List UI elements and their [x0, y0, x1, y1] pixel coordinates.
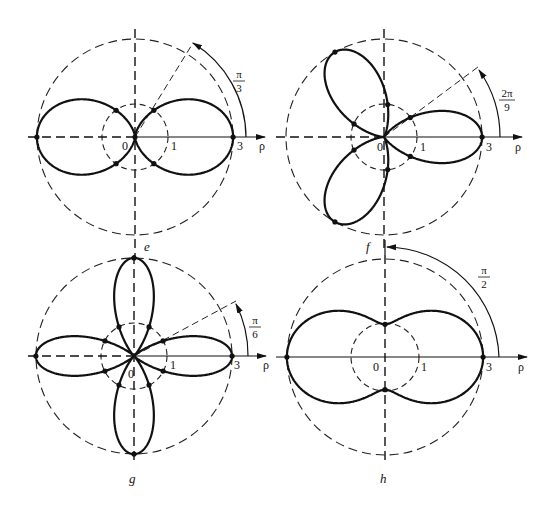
- axis-label-rho: ρ: [259, 139, 265, 153]
- axis-label-rho: ρ: [263, 358, 269, 372]
- angle-ray: [135, 43, 193, 137]
- tick-label-3: 3: [234, 358, 240, 372]
- angle-numerator: π: [252, 314, 258, 326]
- curve-point: [351, 147, 356, 152]
- curve-point: [151, 161, 156, 166]
- curve-point: [332, 49, 337, 54]
- tick-label-1: 1: [170, 358, 176, 372]
- angle-numerator: 2π: [501, 87, 513, 99]
- curve-point: [102, 368, 107, 373]
- origin-label: 0: [128, 367, 134, 381]
- curve-point: [114, 161, 119, 166]
- curve-point: [151, 108, 156, 113]
- angle-denominator: 9: [504, 101, 510, 113]
- curve-point: [116, 324, 121, 329]
- curve-point: [34, 134, 39, 139]
- tick-label-3: 3: [486, 140, 492, 154]
- curve-point: [408, 115, 413, 120]
- curve-point: [408, 154, 413, 159]
- curve-point: [146, 382, 151, 387]
- panel-h: 0 1 3 ρ π 2 h: [276, 240, 527, 486]
- panel-label: g: [129, 471, 136, 486]
- angle-numerator: π: [481, 264, 487, 276]
- angle-denominator: 2: [481, 278, 487, 290]
- polar-curves-figure: 0 1 3 ρ π 3 e 0 1 3 ρ 2π 9 f: [0, 0, 552, 518]
- origin-label: 0: [373, 360, 379, 374]
- curve-point: [481, 354, 486, 359]
- curve-point: [160, 368, 165, 373]
- curve-point: [382, 387, 387, 392]
- angle-arc: [479, 70, 500, 137]
- curve-point: [385, 167, 390, 172]
- curve-point: [351, 121, 356, 126]
- curve-point: [284, 354, 289, 359]
- curve-point: [131, 452, 136, 457]
- curve-point: [116, 382, 121, 387]
- tick-label-1: 1: [421, 360, 427, 374]
- angle-arc: [236, 304, 248, 356]
- panel-label: h: [380, 471, 387, 486]
- angle-numerator: π: [236, 68, 242, 80]
- curve-point: [382, 322, 387, 327]
- axis-label-rho: ρ: [518, 360, 524, 374]
- curve-point: [131, 255, 136, 260]
- angle-ray: [384, 67, 478, 137]
- tick-label-3: 3: [237, 139, 243, 153]
- curve-point: [231, 134, 236, 139]
- axis-label-rho: ρ: [515, 140, 521, 154]
- tick-label-1: 1: [420, 140, 426, 154]
- curve-point: [132, 134, 137, 139]
- curve-point: [33, 353, 38, 358]
- tick-label-3: 3: [486, 360, 492, 374]
- curve-point: [114, 108, 119, 113]
- curve-point: [160, 338, 165, 343]
- panel-e: 0 1 3 ρ π 3 e: [28, 29, 265, 259]
- tick-label-1: 1: [171, 139, 177, 153]
- panel-label: f: [366, 239, 372, 254]
- angle-denominator: 3: [236, 82, 242, 94]
- curve-point: [146, 324, 151, 329]
- origin-label: 0: [122, 139, 128, 153]
- panel-f: 0 1 3 ρ 2π 9 f: [276, 29, 522, 254]
- curve-point: [102, 338, 107, 343]
- panel-g: 0 1 3 ρ π 6 g: [28, 255, 269, 486]
- curve-point: [480, 134, 485, 139]
- origin-label: 0: [377, 140, 383, 154]
- curve-point: [385, 102, 390, 107]
- panel-label: e: [144, 239, 150, 254]
- curve-point: [332, 219, 337, 224]
- angle-denominator: 6: [252, 328, 258, 340]
